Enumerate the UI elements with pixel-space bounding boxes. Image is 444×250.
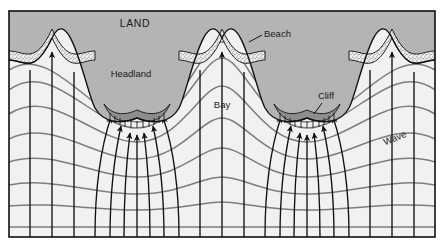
diagram-canvas: LAND Beach Headland Bay Cliff Wave	[0, 0, 444, 250]
label-bay: Bay	[214, 99, 231, 110]
label-headland: Headland	[111, 68, 152, 79]
figure-body	[9, 11, 435, 237]
wave-refraction-figure: LAND Beach Headland Bay Cliff Wave	[0, 0, 444, 250]
label-land: LAND	[120, 17, 150, 29]
sea-region	[9, 11, 435, 237]
label-cliff: Cliff	[318, 90, 335, 101]
label-beach: Beach	[264, 28, 291, 39]
